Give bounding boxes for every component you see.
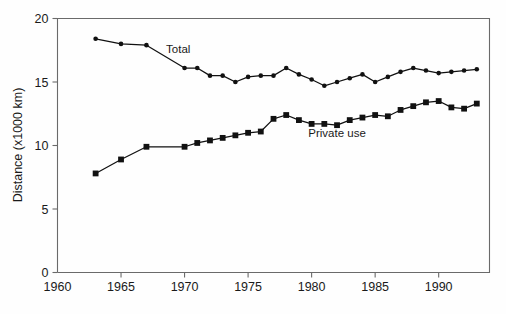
data-point [474,101,480,107]
y-axis-title: Distance (x1000 km) [11,88,25,203]
y-tick-label: 0 [42,266,49,280]
series-layer [93,37,480,177]
data-point [258,129,264,135]
x-tick-label: 1960 [44,280,72,294]
data-point [93,37,98,42]
y-tick-label: 15 [35,76,49,90]
data-point [220,135,226,141]
data-point [119,42,124,47]
data-point [182,144,188,150]
data-point [245,130,251,136]
data-point [398,70,403,75]
x-tick-label: 1965 [107,280,135,294]
data-point [194,140,200,146]
line-chart: 05101520 1960196519701975198019851990 Di… [0,0,506,314]
data-point [424,68,429,73]
data-point [398,107,404,113]
axes-frame [58,19,490,273]
data-point [462,68,467,73]
data-point [144,144,150,150]
data-point [144,43,149,48]
x-tick-label: 1980 [298,280,326,294]
data-point [449,70,454,75]
series-total [93,37,479,89]
series-label-private-use: Private use [308,127,366,139]
data-point [93,171,99,177]
data-point [474,67,479,72]
data-point [309,77,314,82]
data-point [386,75,391,80]
data-point [411,66,416,71]
x-tick-label: 1975 [234,280,262,294]
data-point [347,76,352,81]
data-point [271,73,276,78]
series-line [96,39,477,86]
data-point [118,157,124,163]
data-point [296,117,302,123]
data-point [283,112,289,118]
data-point [322,84,327,89]
data-point [385,113,391,119]
data-point [410,103,416,109]
data-point [246,75,251,80]
data-point [436,71,441,76]
data-point [373,80,378,85]
y-tick-label: 20 [35,12,49,26]
data-point [271,116,277,122]
x-tick-label: 1970 [171,280,199,294]
data-point [232,132,238,138]
data-point [258,73,263,78]
data-point [195,66,200,71]
series-label-total: Total [166,43,190,55]
data-point [220,73,225,78]
y-tick-label: 5 [42,203,49,217]
data-point [182,66,187,71]
data-point [461,106,467,112]
x-tick-label: 1985 [361,280,389,294]
data-point [207,138,213,144]
data-point [448,105,454,111]
y-axis-ticks: 05101520 [35,12,58,280]
series-line [96,101,477,173]
data-point [233,80,238,85]
data-point [423,99,429,105]
x-axis-ticks: 1960196519701975198019851990 [44,273,453,295]
data-point [284,66,289,71]
data-point [360,72,365,77]
data-point [372,112,378,118]
data-point [360,115,366,121]
y-tick-label: 10 [35,139,49,153]
series-private-use [93,98,480,176]
data-point [347,117,353,123]
x-tick-label: 1990 [425,280,453,294]
chart-figure: 05101520 1960196519701975198019851990 Di… [0,0,506,314]
data-point [297,72,302,77]
data-point [436,98,442,104]
data-point [208,73,213,78]
data-point [335,80,340,85]
